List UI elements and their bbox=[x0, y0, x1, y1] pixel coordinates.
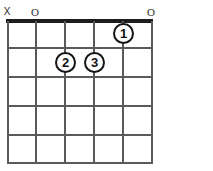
fret-line-5 bbox=[7, 162, 152, 164]
string-line-2 bbox=[35, 21, 37, 164]
string-marker-2: O bbox=[28, 5, 42, 19]
string-line-6 bbox=[151, 21, 153, 164]
chord-diagram: X O O 1 2 3 bbox=[0, 0, 213, 171]
fretboard: 1 2 3 bbox=[7, 19, 152, 164]
nut-bar bbox=[6, 19, 153, 23]
string-marker-1: X bbox=[0, 5, 14, 19]
string-marker-6: O bbox=[144, 5, 158, 19]
finger-dot-1: 1 bbox=[113, 23, 134, 44]
string-marker-3 bbox=[57, 5, 71, 19]
string-marker-5 bbox=[115, 5, 129, 19]
fret-line-4 bbox=[7, 134, 152, 136]
string-line-3 bbox=[64, 21, 66, 164]
fret-line-1 bbox=[7, 47, 152, 49]
fret-line-3 bbox=[7, 105, 152, 107]
finger-dot-3: 3 bbox=[84, 52, 105, 73]
fret-line-2 bbox=[7, 76, 152, 78]
string-line-4 bbox=[93, 21, 95, 164]
string-marker-4 bbox=[86, 5, 100, 19]
string-line-1 bbox=[7, 21, 9, 164]
finger-dot-2: 2 bbox=[55, 52, 76, 73]
